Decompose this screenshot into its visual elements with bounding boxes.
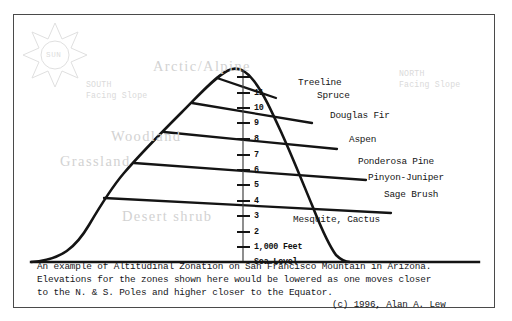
vegetation-label-sage-brush: Sage Brush [384, 189, 438, 200]
north-label-line1: NORTH [399, 68, 460, 79]
axis-tick-label-8: 8 [254, 134, 259, 144]
south-label-line2: Facing Slope [86, 90, 147, 101]
zone-label-grassland: Grassland [60, 153, 131, 170]
axis-tick-label-3: 3 [254, 211, 259, 221]
axis-tick-label-6: 6 [254, 165, 259, 175]
caption-line-1: An example of Altitudinal Zonation on Sa… [37, 260, 477, 273]
figure-frame: SUN SOUTH Facing Slope NORTH Facing Slop… [13, 14, 495, 308]
zone-boundary-aspen [134, 163, 366, 180]
axis-tick-label-2: 2 [254, 227, 259, 237]
zone-label-desert-shrub: Desert shrub [122, 208, 213, 225]
vegetation-label-aspen: Aspen [349, 134, 376, 145]
vegetation-label-treeline: Treeline [298, 77, 341, 88]
zone-label-woodland: Woodland [111, 128, 181, 145]
axis-tick-label-1000-feet: 1,000 Feet [254, 242, 302, 252]
caption-line-2: Elevations for the zones shown here woul… [37, 273, 477, 286]
axis-tick-label-10: 10 [254, 103, 264, 113]
vegetation-label-spruce: Spruce [317, 90, 350, 101]
caption-line-3: to the N. & S. Poles and higher closer t… [37, 286, 477, 299]
screenshot-root: SUN SOUTH Facing Slope NORTH Facing Slop… [0, 0, 512, 321]
axis-tick-label-11: 11 [254, 88, 264, 98]
figure-caption: An example of Altitudinal Zonation on Sa… [37, 260, 477, 300]
vegetation-label-ponderosa-pine: Ponderosa Pine [358, 156, 434, 167]
axis-tick-label-9: 9 [254, 118, 259, 128]
axis-tick-label-5: 5 [254, 180, 259, 190]
vegetation-label-douglas-fir: Douglas Fir [330, 110, 390, 121]
north-label-line2: Facing Slope [399, 79, 460, 90]
vegetation-label-mesquite-cactus: Mesquite, Cactus [293, 214, 380, 225]
copyright-credit: (c) 1996, Alan A. Lew [332, 299, 446, 310]
axis-tick-label-4: 4 [254, 196, 259, 206]
zone-label-arctic-alpine: Arctic/Alpine [153, 58, 251, 75]
axis-tick-label-7: 7 [254, 150, 259, 160]
vegetation-label-pinyon-juniper: Pinyon-Juniper [368, 172, 444, 183]
south-label-line1: SOUTH [86, 79, 147, 90]
sun-label: SUN [46, 51, 61, 59]
south-facing-slope-label: SOUTH Facing Slope [86, 79, 147, 101]
zone-boundary-spruce [192, 103, 312, 123]
zone-boundary-treeline [217, 78, 276, 98]
north-facing-slope-label: NORTH Facing Slope [399, 68, 460, 90]
zone-boundary-douglas-fir [164, 132, 337, 149]
